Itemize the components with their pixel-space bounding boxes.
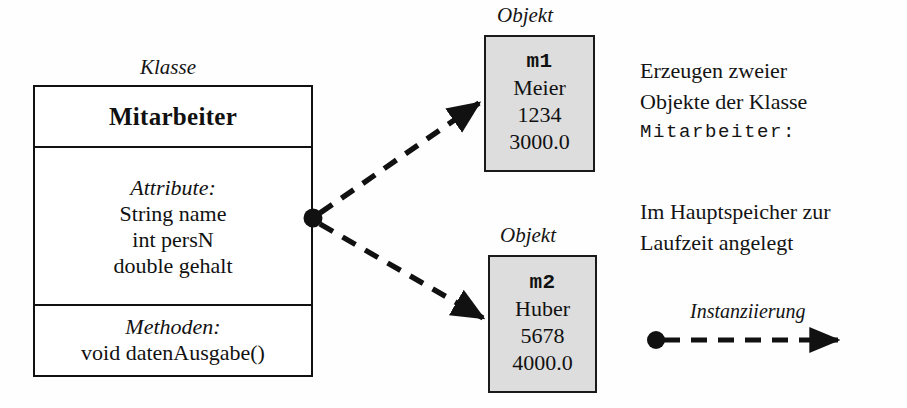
class-box: Mitarbeiter Attribute: String name int p… [33, 85, 313, 377]
object-value: 3000.0 [509, 129, 570, 156]
instantiation-arrow-m2 [320, 224, 483, 318]
note-create-objects-line2: Objekte der Klasse [640, 87, 807, 116]
method-row: void datenAusgabe() [81, 340, 265, 366]
object-value: 4000.0 [512, 350, 573, 377]
note-create-objects-line1: Erzeugen zweier [640, 56, 787, 85]
note-runtime-memory-line2: Laufzeit angelegt [640, 228, 793, 257]
methods-heading: Methoden: [125, 314, 220, 340]
object-box-m1: m1 Meier 1234 3000.0 [484, 35, 595, 172]
note-create-objects-class-ref: Mitarbeiter: [640, 120, 796, 145]
object-id-m2: m2 [529, 270, 555, 296]
object-value: 5678 [521, 323, 565, 350]
instantiation-arrow-m1 [320, 103, 479, 213]
object-value: 1234 [518, 102, 562, 129]
object-caption-m1: Objekt [497, 3, 553, 28]
uml-instantiation-diagram: Klasse Mitarbeiter Attribute: String nam… [0, 0, 907, 408]
attribute-row: String name [120, 201, 227, 227]
attribute-row: double gehalt [113, 253, 232, 279]
class-name: Mitarbeiter [109, 103, 237, 131]
object-box-m2: m2 Huber 5678 4000.0 [488, 255, 597, 393]
class-caption: Klasse [140, 55, 196, 80]
object-value: Meier [513, 75, 566, 102]
class-methods-compartment: Methoden: void datenAusgabe() [35, 306, 311, 374]
attributes-heading: Attribute: [130, 175, 216, 201]
object-value: Huber [515, 296, 570, 323]
legend-source-dot [647, 331, 665, 349]
object-id-m1: m1 [526, 49, 552, 75]
class-attributes-compartment: Attribute: String name int persN double … [35, 148, 311, 306]
note-runtime-memory-line1: Im Hauptspeicher zur [640, 197, 831, 226]
class-name-compartment: Mitarbeiter [35, 87, 311, 148]
object-caption-m2: Objekt [500, 223, 556, 248]
attribute-row: int persN [132, 227, 213, 253]
legend-label-instanziierung: Instanziierung [690, 300, 806, 323]
